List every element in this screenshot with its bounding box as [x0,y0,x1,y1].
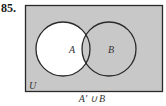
set-a-label: A [68,44,76,55]
set-b-label: B [108,44,114,55]
universe-label: U [29,80,37,91]
venn-diagram: A B U [0,0,166,106]
caption: A′ ∪ B [0,93,166,104]
